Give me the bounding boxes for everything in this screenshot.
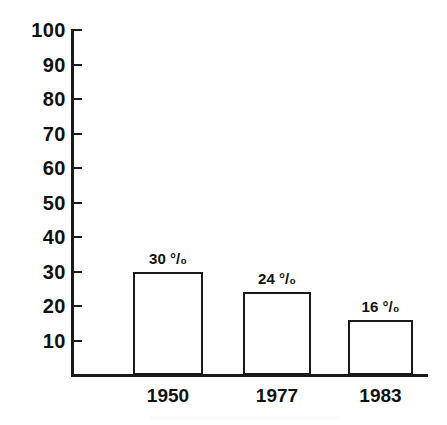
x-axis-category-label-1983: 1983 [336, 386, 425, 405]
y-axis-tick [71, 29, 82, 31]
bar-value-label-1977: 24 °/₀ [243, 271, 311, 286]
y-axis-tick [71, 98, 82, 100]
bar-chart: 100 90 80 70 60 50 40 30 20 10 30 °/₀ 24… [0, 0, 447, 425]
y-axis-tick [71, 340, 82, 342]
y-axis-tick-label: 80 [4, 89, 66, 109]
y-axis-tick-label: 40 [4, 227, 66, 247]
y-axis-tick [71, 133, 82, 135]
y-axis-spine [71, 30, 74, 377]
bar-1977 [243, 292, 311, 375]
x-axis-category-label-1977: 1977 [231, 386, 323, 405]
y-axis-tick-label: 60 [4, 158, 66, 178]
y-axis-tick [71, 64, 82, 66]
y-axis-tick-label: 70 [4, 124, 66, 144]
x-axis-category-label-1950: 1950 [121, 386, 215, 405]
y-axis-tick-label: 30 [4, 262, 66, 282]
y-axis-tick-label: 50 [4, 193, 66, 213]
y-axis-tick [71, 236, 82, 238]
y-axis-tick-label: 90 [4, 55, 66, 75]
bar-value-label-1950: 30 °/₀ [133, 251, 203, 266]
y-axis-tick [71, 202, 82, 204]
y-axis-tick [71, 305, 82, 307]
y-axis-tick [71, 271, 82, 273]
scan-artifact [150, 416, 340, 420]
y-axis-tick [71, 167, 82, 169]
bar-value-label-1983: 16 °/₀ [348, 299, 413, 314]
bar-1950 [133, 272, 203, 376]
bar-1983 [348, 320, 413, 375]
y-axis-tick-label: 10 [4, 331, 66, 351]
y-axis-tick-label: 20 [4, 296, 66, 316]
y-axis-tick-label: 100 [4, 20, 66, 40]
